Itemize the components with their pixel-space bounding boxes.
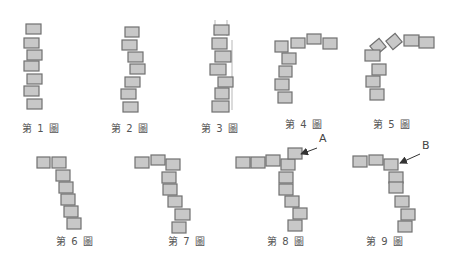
block [401, 209, 415, 220]
figure-5 [365, 33, 434, 100]
block [215, 51, 231, 62]
block [386, 33, 402, 49]
block [404, 35, 419, 46]
figure-label: 第 8 圖 [267, 233, 305, 248]
block [398, 221, 412, 232]
block [282, 53, 296, 64]
block [123, 102, 138, 112]
block [275, 79, 289, 90]
figure-label: 第 9 圖 [366, 233, 404, 248]
callout-label: B [422, 139, 430, 152]
block [27, 99, 42, 109]
block [218, 77, 233, 87]
block [162, 172, 176, 183]
block [215, 88, 229, 99]
figure-7 [135, 155, 190, 233]
callout-arrow-icon [301, 148, 317, 154]
block [307, 34, 321, 44]
block [288, 220, 302, 231]
block [67, 218, 81, 229]
block [395, 196, 409, 207]
block [27, 74, 42, 84]
block [212, 38, 227, 49]
block [384, 159, 398, 170]
block [210, 64, 226, 75]
figure-3 [210, 20, 233, 112]
block [369, 155, 383, 165]
block [389, 182, 403, 193]
block [163, 184, 177, 195]
block [125, 77, 140, 87]
block [151, 155, 165, 165]
figure-6 [37, 157, 81, 229]
block [266, 155, 280, 166]
figure-1 [24, 24, 42, 109]
block [323, 38, 337, 49]
figure-label: 第 3 圖 [201, 120, 239, 135]
block [172, 222, 186, 233]
block [279, 66, 292, 77]
block [168, 196, 182, 207]
figure-8 [236, 148, 317, 231]
block [59, 182, 73, 193]
figure-label: 第 5 圖 [373, 116, 411, 131]
block [279, 172, 293, 183]
callout-arrow-icon [400, 154, 420, 163]
block [288, 148, 302, 159]
figure-label: 第 1 圖 [22, 120, 60, 135]
block [372, 64, 386, 75]
figure-9 [353, 154, 420, 232]
block [26, 24, 41, 34]
figure-label: 第 6 圖 [56, 233, 94, 248]
block [24, 38, 39, 48]
block [275, 41, 288, 52]
block [175, 209, 190, 220]
block [166, 159, 180, 170]
block [24, 61, 39, 71]
block [370, 89, 384, 100]
block [279, 184, 293, 195]
figure-2 [121, 27, 145, 112]
block [281, 159, 295, 170]
block [61, 194, 75, 205]
block [37, 157, 50, 168]
block [278, 92, 292, 103]
block [236, 157, 250, 168]
figure-label: 第 7 圖 [168, 233, 206, 248]
block [24, 86, 39, 96]
block [130, 64, 145, 74]
block [128, 52, 143, 62]
block [212, 101, 229, 112]
block [251, 157, 265, 168]
figure-label: 第 2 圖 [111, 120, 149, 135]
block [121, 89, 136, 99]
figure-label: 第 4 圖 [285, 116, 323, 131]
block [389, 172, 403, 183]
block [27, 50, 42, 60]
callout-label: A [319, 132, 327, 145]
block [214, 25, 229, 35]
figure-4 [275, 34, 337, 103]
block [56, 170, 70, 181]
block [135, 157, 149, 168]
block [365, 50, 380, 61]
block [122, 40, 137, 50]
block [293, 208, 307, 219]
block [64, 206, 78, 217]
block [353, 156, 367, 167]
block [285, 196, 299, 207]
block [52, 157, 66, 168]
block [125, 27, 139, 37]
block [419, 37, 434, 48]
block [366, 76, 380, 87]
block [291, 38, 305, 48]
